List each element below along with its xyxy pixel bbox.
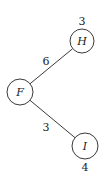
edge-F-H [30, 49, 73, 84]
diagram-svg: H3FI4 63 [0, 0, 104, 181]
node-label: H [76, 35, 87, 48]
edge-weight-F-I: 3 [43, 121, 50, 134]
edge-weight-F-H: 6 [43, 55, 50, 68]
node-value: 4 [82, 161, 89, 174]
edge-F-I [30, 100, 75, 137]
node-H: H3 [70, 15, 94, 53]
node-I: I4 [72, 133, 98, 174]
node-F: F [7, 79, 33, 105]
tree-diagram: H3FI4 63 [0, 0, 104, 181]
node-label: I [82, 140, 88, 153]
node-value: 3 [79, 15, 86, 28]
node-label: F [15, 86, 24, 99]
